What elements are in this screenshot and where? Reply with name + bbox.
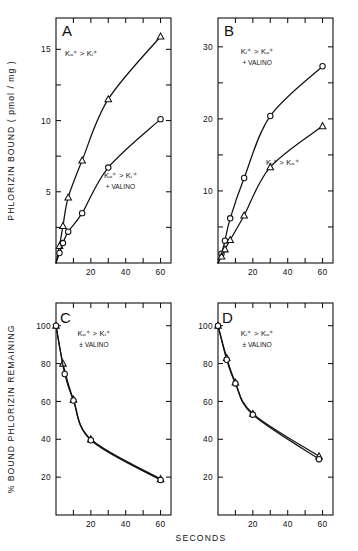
data-point-circle (65, 229, 70, 234)
series-curve (56, 37, 161, 263)
panel-d: 20406020406080100DKᵢ⁺ > Kₒ⁺± VALINO (198, 303, 333, 529)
series-annotation: Kᵢ⁺ > Kₒ⁺ (241, 329, 274, 338)
x-tick-label: 20 (248, 267, 258, 277)
series-annotation-sub: + VALINO (242, 59, 271, 66)
series-annotation-sub: + VALINO (106, 183, 135, 190)
panel-b: 204060102030BKᵢ⁺ > Kₒ⁺+ VALINOKᵢ⁺ > Kₒ⁺ (203, 18, 333, 277)
panel-c: 20406020406080100CKₒ⁺ > Kᵢ⁺± VALINO (36, 303, 171, 529)
panel-letter-a: A (62, 22, 72, 39)
y-axis-label-top: PHLORIZIN BOUND ( pmol / mg ) (6, 60, 16, 220)
data-point-circle (224, 357, 229, 362)
series-annotation: Kᵢ⁺ > Kₒ⁺ (266, 158, 299, 167)
data-point-circle (158, 116, 163, 121)
series-annotation: Kₒ⁺ > Kᵢ⁺ (65, 49, 98, 58)
y-tick-label: 5 (46, 187, 51, 197)
plot-frame (218, 18, 333, 263)
series-annotation-sub: ± VALINO (79, 341, 108, 348)
y-tick-label: 20 (203, 114, 213, 124)
y-tick-label: 60 (203, 397, 213, 407)
data-point-circle (250, 412, 255, 417)
panel-letter-b: B (224, 22, 234, 39)
y-tick-label: 10 (41, 116, 51, 126)
data-point-circle (106, 165, 111, 170)
data-point-circle (158, 477, 163, 482)
data-point-circle (233, 381, 238, 386)
data-point-triangle (60, 223, 67, 229)
data-point-circle (227, 216, 232, 221)
data-point-circle (320, 64, 325, 69)
panel-letter-c: C (60, 309, 71, 326)
y-tick-label: 100 (198, 321, 213, 331)
data-point-circle (60, 240, 65, 245)
plot-frame (56, 303, 171, 515)
figure-svg: 20406051015AKₒ⁺ > Kᵢ⁺Kₒ⁺ > Kᵢ⁺+ VALINO20… (0, 0, 358, 551)
x-tick-label: 20 (86, 267, 96, 277)
y-tick-label: 80 (41, 359, 51, 369)
x-axis-label: SECONDS (176, 533, 227, 543)
data-point-circle (57, 250, 62, 255)
y-tick-label: 40 (203, 434, 213, 444)
x-tick-label: 40 (283, 519, 293, 529)
data-point-circle (79, 210, 84, 215)
x-tick-label: 40 (283, 267, 293, 277)
x-tick-label: 20 (248, 519, 258, 529)
y-axis-label-bottom: % BOUND PHLORIZIN REMAINING (6, 325, 16, 494)
data-point-circle (71, 398, 76, 403)
data-point-circle (215, 323, 220, 328)
x-tick-label: 20 (86, 519, 96, 529)
series-annotation: Kₒ⁺ > Kᵢ⁺ (104, 171, 137, 180)
data-point-circle (316, 456, 321, 461)
data-point-triangle (79, 157, 86, 163)
x-tick-label: 60 (318, 519, 328, 529)
x-tick-label: 60 (318, 267, 328, 277)
series-annotation: Kₒ⁺ > Kᵢ⁺ (78, 329, 111, 338)
y-tick-label: 60 (41, 397, 51, 407)
y-tick-label: 15 (41, 44, 51, 54)
series-curve (56, 119, 161, 263)
data-point-triangle (241, 212, 248, 218)
data-point-triangle (319, 123, 326, 129)
panel-a: 20406051015AKₒ⁺ > Kᵢ⁺Kₒ⁺ > Kᵢ⁺+ VALINO (41, 18, 171, 277)
plot-frame (218, 303, 333, 515)
x-tick-label: 40 (121, 519, 131, 529)
data-point-circle (88, 438, 93, 443)
x-tick-label: 40 (121, 267, 131, 277)
data-point-triangle (157, 33, 164, 39)
panel-letter-d: D (222, 309, 233, 326)
y-tick-label: 10 (203, 186, 213, 196)
x-tick-label: 60 (156, 267, 166, 277)
y-tick-label: 80 (203, 359, 213, 369)
y-tick-label: 30 (203, 42, 213, 52)
data-point-circle (62, 371, 67, 376)
data-point-circle (241, 175, 246, 180)
data-point-circle (268, 113, 273, 118)
y-tick-label: 20 (41, 472, 51, 482)
y-tick-label: 40 (41, 434, 51, 444)
y-tick-label: 20 (203, 472, 213, 482)
data-point-triangle (65, 194, 72, 200)
figure-container: 20406051015AKₒ⁺ > Kᵢ⁺Kₒ⁺ > Kᵢ⁺+ VALINO20… (0, 0, 358, 551)
x-tick-label: 60 (156, 519, 166, 529)
y-tick-label: 100 (36, 321, 51, 331)
series-annotation: Kᵢ⁺ > Kₒ⁺ (241, 47, 274, 56)
data-point-circle (53, 323, 58, 328)
series-annotation-sub: ± VALINO (243, 341, 272, 348)
